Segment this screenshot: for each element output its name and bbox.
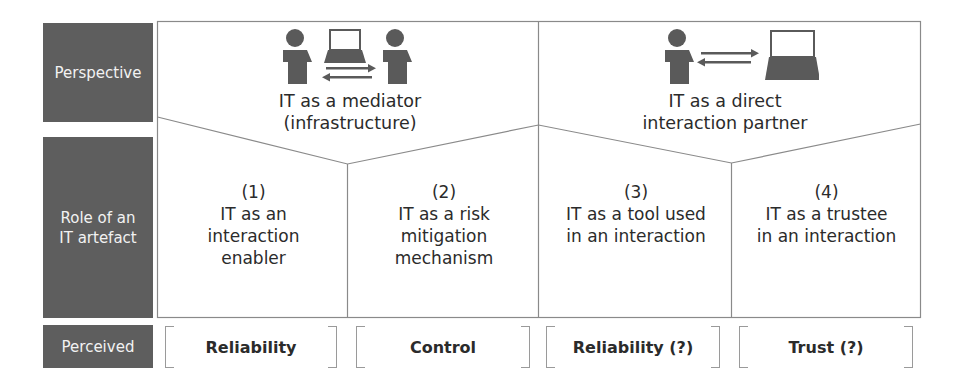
- role-line: in an interaction: [733, 225, 920, 247]
- perspective-mediator-line1: IT as a mediator: [250, 90, 450, 112]
- role-cell-2: (2) IT as a risk mitigation mechanism: [350, 181, 538, 269]
- role-cell-1: (1) IT as an interaction enabler: [160, 181, 347, 269]
- role-line: in an interaction: [541, 225, 731, 247]
- role-number: (4): [733, 181, 920, 203]
- perceived-trust-q: Trust (?): [739, 326, 913, 368]
- role-line: IT as a tool used: [541, 203, 731, 225]
- perceived-value: Trust (?): [788, 338, 863, 357]
- perceived-value: Reliability (?): [573, 338, 693, 357]
- perceived-value: Control: [410, 338, 476, 357]
- bracket-right: [328, 326, 337, 368]
- role-line: mitigation: [350, 225, 538, 247]
- role-number: (1): [160, 181, 347, 203]
- perceived-value: Reliability: [206, 338, 297, 357]
- person-laptop-person-icon: [278, 26, 413, 86]
- role-line: mechanism: [350, 247, 538, 269]
- bracket-left: [739, 326, 748, 368]
- bracket-right: [521, 326, 530, 368]
- role-line: IT as a trustee: [733, 203, 920, 225]
- perspective-mediator: IT as a mediator (infrastructure): [250, 90, 450, 134]
- bracket-left: [546, 326, 555, 368]
- bracket-right: [711, 326, 720, 368]
- role-line: enabler: [160, 247, 347, 269]
- perspective-direct-partner: IT as a direct interaction partner: [625, 90, 825, 134]
- role-cell-4: (4) IT as a trustee in an interaction: [733, 181, 920, 247]
- perspective-mediator-line2: (infrastructure): [250, 112, 450, 134]
- role-cell-3: (3) IT as a tool used in an interaction: [541, 181, 731, 247]
- role-number: (2): [350, 181, 538, 203]
- bracket-right: [904, 326, 913, 368]
- perceived-control: Control: [356, 326, 530, 368]
- role-line: IT as a risk: [350, 203, 538, 225]
- perceived-reliability-q: Reliability (?): [546, 326, 720, 368]
- role-line: IT as an: [160, 203, 347, 225]
- role-number: (3): [541, 181, 731, 203]
- bracket-left: [165, 326, 174, 368]
- perspective-direct-line2: interaction partner: [625, 112, 825, 134]
- perceived-reliability: Reliability: [165, 326, 337, 368]
- person-exchange-laptop-icon: [659, 28, 819, 84]
- role-line: interaction: [160, 225, 347, 247]
- bracket-left: [356, 326, 365, 368]
- perspective-direct-line1: IT as a direct: [625, 90, 825, 112]
